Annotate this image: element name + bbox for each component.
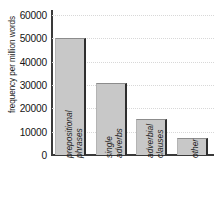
- y-axis-tick-label: 0: [42, 150, 47, 161]
- x-axis-tick-label: other: [174, 158, 215, 220]
- x-axis-tick-label: singleadverbs: [93, 158, 134, 220]
- y-axis-tick-label: 50000: [20, 33, 47, 44]
- x-axis-tick-label-text: adverbialclauses: [146, 124, 165, 158]
- y-axis-tick-label: 60000: [20, 10, 47, 21]
- bar-chart: frequency per million words 010000200003…: [0, 0, 214, 221]
- x-axis-tick-labels: prepositionalphrasessingleadverbsadverbi…: [52, 158, 214, 221]
- x-axis-tick-label-text: singleadverbs: [105, 128, 124, 158]
- y-axis-tick-label: 30000: [20, 80, 47, 91]
- y-axis-tick-label: 20000: [20, 103, 47, 114]
- y-axis-tick-label: 40000: [20, 56, 47, 67]
- x-axis-tick-label: adverbialclauses: [133, 158, 174, 220]
- y-axis-tick-labels: 0100002000030000400005000060000: [0, 0, 52, 221]
- x-axis-tick-label-text: prepositionalphrases: [65, 111, 84, 159]
- x-axis-tick-label: prepositionalphrases: [52, 158, 93, 220]
- y-axis-tick-label: 10000: [20, 126, 47, 137]
- bar-slot: [174, 15, 215, 155]
- x-axis-tick-label-text: other: [191, 139, 201, 158]
